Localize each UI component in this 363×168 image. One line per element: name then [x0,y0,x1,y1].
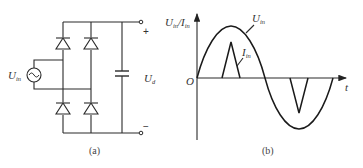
diode-icon [56,102,70,115]
origin-label: O [186,75,194,87]
current-pulse-positive [222,42,240,78]
capacitor-icon [115,71,129,76]
positive-terminal-icon [139,20,143,24]
diagram-canvas: Uin + − Ud (a) Uin/Iin O t Uin Iin ( [0,0,363,168]
current-leader [237,58,243,66]
waveform-plot: Uin/Iin O t Uin Iin (b) [165,12,349,157]
voltage-curve-label: Uin [252,12,265,25]
minus-sign: − [143,121,149,132]
source-top-wire [34,60,63,68]
x-axis-label: t [345,81,349,93]
output-voltage-label: Ud [144,72,156,85]
plus-sign: + [143,26,149,37]
diode-icon [84,102,98,115]
voltage-leader [246,25,254,33]
ac-source-icon [27,68,41,82]
current-pulse-negative [290,78,308,113]
current-curve-label: Iin [241,46,251,59]
source-label: Uin [8,69,21,82]
diode-icon [56,37,70,50]
y-axis-label: Uin/Iin [165,16,190,29]
caption-b: (b) [262,145,274,157]
bridge-rectifier-circuit: Uin + − Ud (a) [8,20,156,157]
diode-icon [84,37,98,50]
caption-a: (a) [89,145,100,157]
